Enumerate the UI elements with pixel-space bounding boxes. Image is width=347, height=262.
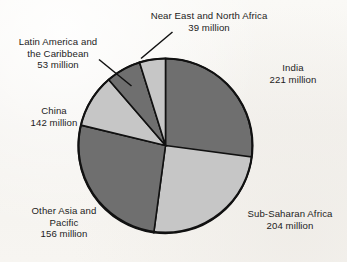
leader-line-near-east	[141, 32, 173, 59]
slice-label-sub-saharan-africa: Sub-Saharan Africa 204 million	[235, 208, 345, 231]
chart-page: Near East and North Africa 39 million La…	[0, 0, 347, 262]
slice-label-other-asia-and-pacific: Other Asia and Pacific 156 million	[6, 205, 122, 240]
slice-label-china: China 142 million	[6, 105, 102, 128]
slice-label-near-east-and-north-africa: Near East and North Africa 39 million	[129, 10, 289, 33]
slice-label-india: India 221 million	[243, 62, 343, 85]
slice-label-latin-america-and-the-caribbean: Latin America and the Caribbean 53 milli…	[2, 36, 114, 71]
